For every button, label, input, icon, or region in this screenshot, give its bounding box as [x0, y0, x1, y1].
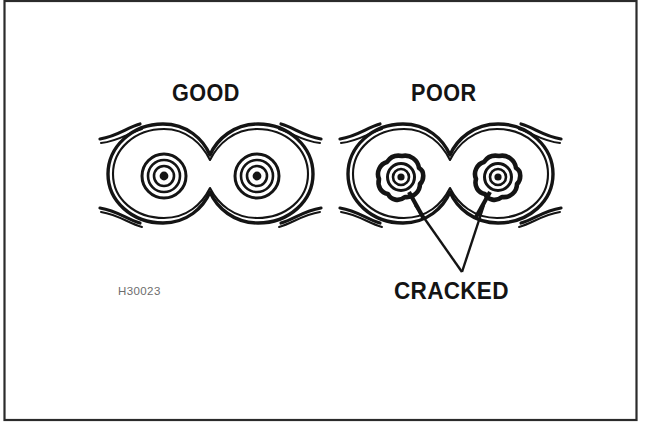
- poor-chain-link: [340, 124, 561, 272]
- figure-page: GOOD POOR CRACKED H30023: [0, 0, 647, 423]
- poor-roller-right-pin: [494, 173, 501, 180]
- cracked-leader-left: [415, 205, 462, 272]
- good-roller-left: [142, 154, 186, 198]
- cracked-callout-leaders: [415, 205, 484, 272]
- good-roller-left-pin: [160, 172, 169, 181]
- good-chain-link: [100, 124, 321, 227]
- poor-roller-left-pin: [397, 173, 404, 180]
- good-side-plate-outline: [108, 124, 313, 223]
- figure-border: [5, 1, 637, 420]
- panel-label-poor: POOR: [411, 80, 477, 107]
- cracked-callout-label: CRACKED: [394, 277, 509, 305]
- good-roller-right-pin: [253, 172, 262, 181]
- panel-label-good: GOOD: [172, 80, 240, 107]
- figure-reference-number: H30023: [118, 285, 161, 297]
- good-roller-right: [235, 154, 279, 198]
- chain-link-illustration: [0, 0, 647, 423]
